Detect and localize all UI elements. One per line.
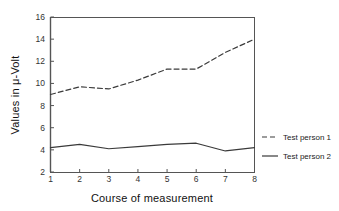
y-tick-label: 4 <box>40 145 45 155</box>
y-tick-label: 10 <box>36 78 46 88</box>
x-tick-label: 6 <box>194 174 199 184</box>
x-tick-label: 8 <box>252 174 257 184</box>
x-tick-label: 5 <box>165 174 170 184</box>
y-tick-label: 12 <box>36 56 46 66</box>
x-tick-label: 4 <box>136 174 141 184</box>
y-tick-label: 8 <box>40 101 45 111</box>
line-chart: Values in μ-Volt Course of measurement 2… <box>0 0 339 211</box>
y-tick-label: 2 <box>40 167 45 177</box>
x-axis-title: Course of measurement <box>91 192 213 204</box>
y-tick-label: 16 <box>36 12 46 22</box>
legend-label-1: Test person 1 <box>283 133 332 142</box>
y-tick-label: 14 <box>36 34 46 44</box>
x-tick-label: 7 <box>223 174 228 184</box>
legend-label-2: Test person 2 <box>283 152 332 161</box>
chart-canvas: Values in μ-Volt Course of measurement 2… <box>0 0 339 211</box>
y-axis-title: Values in μ-Volt <box>9 55 21 134</box>
y-tick-label: 6 <box>40 123 45 133</box>
x-tick-label: 3 <box>106 174 111 184</box>
x-tick-label: 1 <box>48 174 53 184</box>
x-tick-label: 2 <box>77 174 82 184</box>
